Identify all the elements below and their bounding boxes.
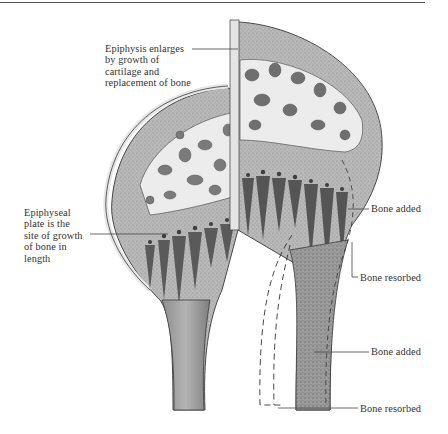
left-epiphysis bbox=[106, 86, 238, 410]
label-bone-resorbed-lower: Bone resorbed bbox=[360, 403, 421, 414]
label-epiphyseal-plate: Epiphyseal plate is the site of growth o… bbox=[24, 207, 83, 264]
label-bone-resorbed-upper: Bone resorbed bbox=[360, 272, 421, 283]
label-bone-added-lower: Bone added bbox=[371, 346, 421, 357]
label-epiphysis-enlarges: Epiphysis enlarges by growth of cartilag… bbox=[105, 43, 191, 89]
label-bone-added-upper: Bone added bbox=[371, 203, 421, 214]
right-epiphysis bbox=[230, 20, 382, 410]
